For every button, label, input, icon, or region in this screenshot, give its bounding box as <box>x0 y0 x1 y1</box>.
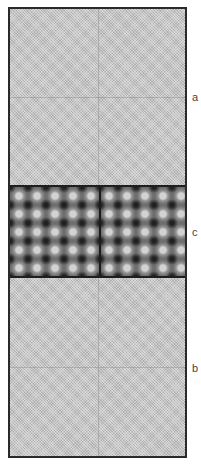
band-center-seam <box>99 187 101 276</box>
label-c: c <box>192 227 198 238</box>
label-a: a <box>192 92 198 103</box>
label-b: b <box>192 363 198 374</box>
region-b-panel <box>10 278 185 456</box>
figure-frame <box>8 7 187 458</box>
region-a-panel <box>10 9 185 185</box>
region-c-band <box>10 185 185 278</box>
